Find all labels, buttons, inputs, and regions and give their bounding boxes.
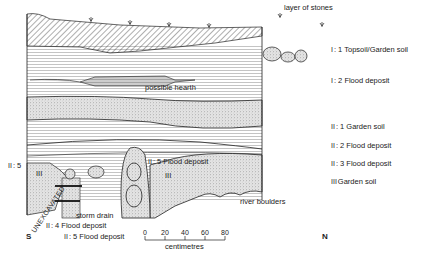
scale-bar (145, 236, 225, 240)
scale-tick-20: 20 (161, 229, 169, 236)
legend-item-flood-1-2: I: 2 Flood deposit (331, 77, 389, 85)
scale-unit: centimetres (165, 243, 204, 251)
scale-tick-80: 80 (221, 229, 229, 236)
legend-item-garden-2-1: II: 1 Garden soil (331, 123, 385, 131)
legend-item-garden-3: IIIGarden soil (331, 178, 376, 186)
label-left-5: II: 5 (8, 162, 21, 170)
legend-item-topsoil: I: 1 Topsoil/Garden soil (331, 46, 408, 54)
label-roman-mid: III (165, 172, 171, 180)
scale-tick-0: 0 (143, 229, 147, 236)
scale-tick-60: 60 (201, 229, 209, 236)
label-mid-5-flood: II: 5 Flood deposit (148, 158, 208, 166)
label-river-boulders: river boulders (240, 198, 285, 206)
legend-item-flood-2-3: II: 3 Flood deposit (331, 160, 391, 168)
label-layer-of-stones: layer of stones (284, 4, 333, 12)
stone-layer (263, 47, 307, 62)
label-roman-left: III (36, 170, 42, 178)
label-flood-4: II: 4 Flood deposit (46, 222, 106, 230)
label-flood-5: II: 5 Flood deposit (64, 233, 124, 241)
label-possible-hearth: possible hearth (145, 84, 196, 92)
scale-tick-40: 40 (181, 229, 189, 236)
legend-item-flood-2-2: II: 2 Flood deposit (331, 142, 391, 150)
compass-north: N (322, 232, 328, 241)
boulder-column (121, 147, 150, 218)
compass-south: S (26, 232, 31, 241)
label-storm-drain: storm drain (76, 212, 114, 220)
